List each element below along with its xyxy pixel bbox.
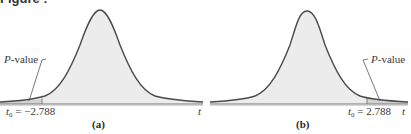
t0-label-a: t0 = −2.788: [6, 105, 56, 119]
t0-label-b: t0 = 2.788: [348, 105, 392, 119]
pvalue-leader-a: [29, 59, 46, 101]
pvalue-label-b: P-value: [370, 53, 405, 65]
panel-b: P-value t0 = 2.788 t (b): [210, 11, 408, 131]
caption-b: (b): [296, 118, 310, 131]
axis-label-a: t: [198, 105, 202, 117]
panel-a: P-value t0 = −2.788 t (a): [0, 10, 203, 131]
figure-canvas: P-value t0 = −2.788 t (a) P-value t0 = 2…: [0, 0, 411, 134]
caption-a: (a): [92, 118, 105, 131]
axis-label-b: t: [402, 105, 406, 117]
pvalue-label-a: P-value: [3, 53, 38, 65]
pvalue-leader-b: [363, 59, 380, 101]
